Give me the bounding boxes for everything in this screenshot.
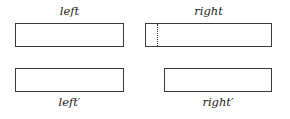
box-right-prime — [164, 68, 272, 92]
label-bottom-left: left′ — [15, 97, 124, 109]
label-top-left: left — [15, 6, 124, 18]
label-bottom-right: right′ — [164, 97, 272, 109]
box-left — [15, 23, 124, 47]
box-right — [145, 23, 272, 47]
label-top-right: right — [145, 6, 272, 18]
box-left-prime — [15, 68, 124, 92]
figure-canvas: left right left′ right′ — [0, 0, 290, 119]
dotted-split-marker — [157, 24, 158, 46]
